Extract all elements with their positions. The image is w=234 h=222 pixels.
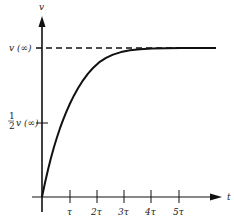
x-axis-label: t (227, 192, 231, 202)
tick-label-4tau: 4τ (144, 207, 157, 217)
half-fraction-denominator: 2 (9, 121, 15, 131)
y-axis-label: v (39, 2, 44, 12)
tick-label-5tau: 5τ (173, 207, 185, 217)
exponential-charging-diagram: v t v (∞) 1 2 v (∞) τ 2τ 3τ 4τ 5τ (0, 0, 234, 222)
half-fraction-numerator: 1 (9, 111, 15, 121)
half-level-label: v (∞) (16, 118, 39, 128)
asymptote-label: v (∞) (9, 43, 32, 53)
tick-label-2tau: 2τ (90, 207, 103, 217)
tick-label-tau: τ (67, 207, 73, 217)
x-axis-arrow-icon (210, 194, 222, 201)
tick-label-3tau: 3τ (118, 207, 130, 217)
y-axis-arrow-icon (39, 16, 46, 27)
charging-curve (42, 48, 216, 197)
